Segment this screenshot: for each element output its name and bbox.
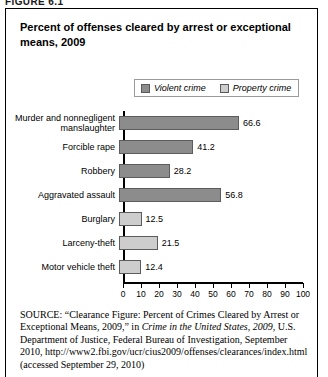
x-axis-tick-label: 20	[154, 289, 163, 299]
bar-track: 21.5	[119, 231, 319, 255]
bar-row: Aggravated assault56.8	[6, 183, 319, 207]
bar-row: Robbery28.2	[6, 159, 319, 183]
bar	[119, 212, 142, 226]
x-axis-tick	[195, 283, 196, 288]
figure-box: Percent of offenses cleared by arrest or…	[5, 8, 318, 377]
x-axis-tick	[213, 283, 214, 288]
x-axis-tick	[249, 283, 250, 288]
legend-swatch-property-icon	[220, 84, 229, 93]
bar-category-label: Robbery	[6, 166, 119, 177]
bar-category-label: Forcible rape	[6, 142, 119, 153]
bar-category-label: Aggravated assault	[6, 190, 119, 201]
bar-track: 41.2	[119, 135, 319, 159]
bar-row: Larceny-theft21.5	[6, 231, 319, 255]
x-axis-tick	[123, 283, 124, 288]
bar	[119, 164, 170, 178]
x-axis-tick-label: 10	[136, 289, 145, 299]
bar-value-label: 66.6	[243, 118, 261, 128]
x-axis-tick	[231, 283, 232, 288]
x-axis-tick	[159, 283, 160, 288]
x-axis-tick-label: 90	[280, 289, 289, 299]
legend-entry-violent-crime: Violent crime	[141, 83, 206, 93]
bar-category-label: Burglary	[6, 214, 119, 225]
bar	[119, 188, 221, 202]
bar	[119, 260, 141, 274]
source-note: SOURCE: “Clearance Figure: Percent of Cr…	[20, 309, 308, 371]
x-axis-tick-label: 70	[244, 289, 253, 299]
bar-row: Motor vehicle theft12.4	[6, 255, 319, 279]
x-axis-tick-label: 30	[172, 289, 181, 299]
x-axis-tick	[285, 283, 286, 288]
chart-legend: Violent crime Property crime	[134, 79, 299, 97]
x-axis-tick	[141, 283, 142, 288]
x-axis-tick-label: 50	[208, 289, 217, 299]
chart-plot-area: Murder and nonnegligent manslaughter66.6…	[6, 107, 319, 292]
bar-track: 56.8	[119, 183, 319, 207]
x-axis-tick-label: 80	[262, 289, 271, 299]
bar-category-label: Larceny-theft	[6, 238, 119, 249]
x-axis-tick-label: 60	[226, 289, 235, 299]
bar-value-label: 56.8	[225, 190, 243, 200]
figure-caption: FIGURE 6.1	[5, 0, 63, 7]
bar-value-label: 12.4	[145, 262, 163, 272]
bar	[119, 236, 158, 250]
bar-row: Forcible rape41.2	[6, 135, 319, 159]
chart-title: Percent of offenses cleared by arrest or…	[20, 20, 300, 50]
bar-row: Burglary12.5	[6, 207, 319, 231]
bar	[119, 140, 193, 154]
source-publication-title: Crime in the United States, 2009	[142, 321, 273, 332]
bar	[119, 116, 239, 130]
legend-swatch-violent-icon	[141, 84, 150, 93]
bar-value-label: 41.2	[197, 142, 215, 152]
x-axis-tick-label: 100	[296, 289, 310, 299]
bar-track: 12.5	[119, 207, 319, 231]
bar-value-label: 12.5	[146, 214, 164, 224]
x-axis-tick	[303, 283, 304, 288]
x-axis-tick	[177, 283, 178, 288]
bar-category-label: Murder and nonnegligent manslaughter	[6, 113, 119, 134]
bar-track: 28.2	[119, 159, 319, 183]
bar-track: 66.6	[119, 111, 319, 135]
bar-value-label: 28.2	[174, 166, 192, 176]
legend-label-property: Property crime	[233, 83, 292, 93]
bar-value-label: 21.5	[162, 238, 180, 248]
legend-label-violent: Violent crime	[154, 83, 206, 93]
bar-rows: Murder and nonnegligent manslaughter66.6…	[6, 111, 319, 279]
x-axis-tick-label: 0	[121, 289, 126, 299]
bar-category-label: Motor vehicle theft	[6, 262, 119, 273]
legend-entry-property-crime: Property crime	[220, 83, 292, 93]
bar-track: 12.4	[119, 255, 319, 279]
x-axis-tick-label: 40	[190, 289, 199, 299]
x-axis-tick	[267, 283, 268, 288]
bar-row: Murder and nonnegligent manslaughter66.6	[6, 111, 319, 135]
x-axis-tick-labels: 0102030405060708090100	[123, 289, 303, 301]
source-label: SOURCE:	[20, 309, 62, 320]
